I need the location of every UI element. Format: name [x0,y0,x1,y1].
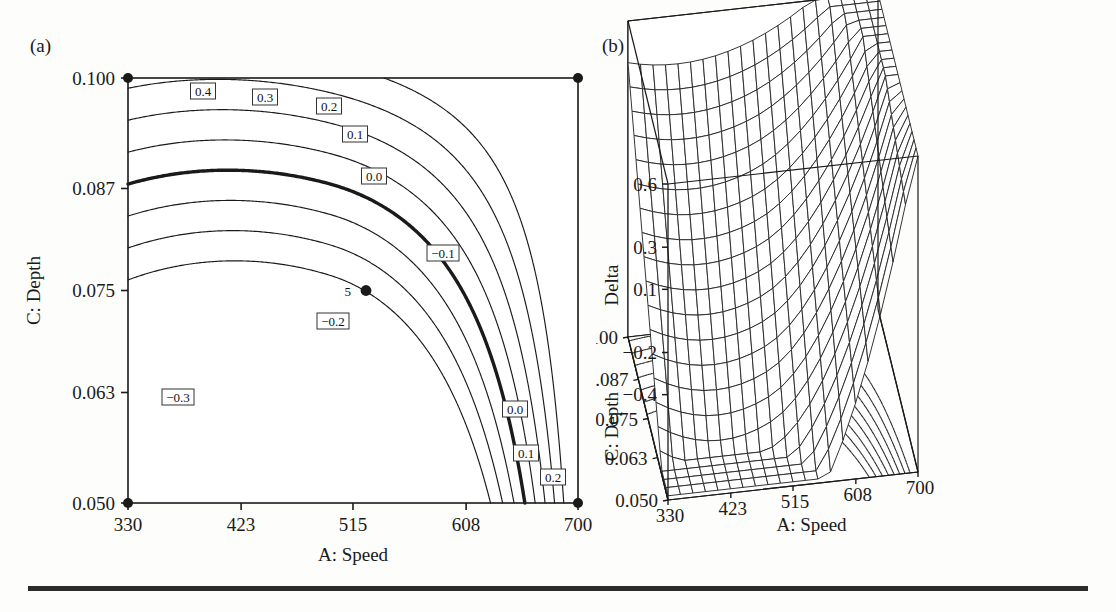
floor-contour-line [844,445,845,446]
mesh-cell [693,85,708,113]
contour-label: −0.2 [317,313,349,329]
contour-label-text: −0.2 [321,314,345,329]
floor-contour-line [870,381,871,382]
mesh-cell [731,409,746,438]
floor-contour-line [877,440,878,441]
floor-contour-line [896,465,897,466]
floor-contour-line [885,425,886,426]
mesh-cell [708,440,723,457]
floor-contour-line [885,468,886,469]
floor-contour-line [887,430,888,431]
floor-contour-line [896,450,897,451]
floor-contour-line [874,462,875,463]
mesh-cell [709,131,724,160]
floor-contour-line [901,463,902,464]
floor-contour-line [908,467,909,468]
floor-contour-line [889,463,890,464]
mesh-cell [727,359,742,388]
z-tick-label: −0.2 [623,342,657,363]
floor-contour-line [880,472,881,473]
floor-contour-line [882,403,883,404]
floor-contour-line [884,407,885,408]
panel-b-label: (b) [602,35,624,57]
z-axis-title: Delta [601,264,622,306]
floor-contour-line [856,407,857,408]
floor-contour-line [879,399,880,400]
floor-contour-line [887,459,888,460]
floor-contour-line [848,436,849,437]
floor-contour-line [880,446,881,447]
floor-contour-line [869,412,870,413]
floor-contour-line [901,448,902,449]
floor-contour-line [894,429,895,430]
floor-contour-line [876,452,877,453]
floor-contour-line [902,449,903,450]
contour-label: −0.3 [162,389,194,405]
x-tick-label-3d: 330 [656,505,685,526]
floor-contour-line [859,462,860,463]
y-tick-3d [633,379,638,380]
mesh-cell [717,232,732,261]
floor-contour-line [876,391,877,392]
mesh-cell [719,258,734,287]
mesh-cell [721,283,736,312]
floor-contour-line [889,449,890,450]
floor-contour-line [854,444,855,445]
floor-contour-line [867,474,868,475]
floor-contour-line [893,428,894,429]
floor-contour-line [883,452,884,453]
floor-contour-line [880,432,881,433]
y-tick-3d [663,500,668,501]
floor-contour-line [878,413,879,414]
mesh-cell [692,239,707,265]
mesh-cell [716,51,731,81]
y-axis-title-3d: C: Depth [601,392,622,462]
floor-contour-line [883,421,884,422]
floor-contour-line [872,401,873,402]
floor-contour-line [874,406,875,407]
floor-contour-line [866,436,867,437]
floor-contour-line [863,417,864,418]
mesh-cell [678,62,693,89]
x-axis-title-3d: A: Speed [776,514,847,535]
floor-contour-line [886,471,887,472]
mesh-cell [733,434,748,454]
floor-contour-line [872,418,873,419]
mesh-cell [713,337,728,365]
contour-label-text: 0.0 [366,169,382,184]
floor-contour-line [649,413,651,414]
y-tick-3d [643,419,648,420]
floor-contour-line [892,425,893,426]
floor-contour-line [895,432,896,433]
mesh-cell [729,479,744,489]
contour-label: −0.1 [427,245,459,261]
floor-contour-line [869,426,870,427]
floor-contour-line [904,455,905,456]
mesh-cell [779,474,794,484]
floor-contour-line [899,442,900,443]
floor-contour-line [899,471,900,472]
floor-contour-line [871,400,872,401]
floor-contour-line [881,418,882,419]
floor-contour-line [876,393,877,394]
floor-contour-line [894,431,895,432]
floor-contour-line [875,407,876,408]
floor-contour-line [888,416,889,417]
floor-contour-line [847,447,848,448]
contour-label: 0.0 [503,401,528,417]
figure-container: (a)0.40.30.20.10.0−0.1−0.2−0.30.00.10.23… [0,0,1116,612]
floor-contour-line [870,413,871,414]
mesh-cell [791,472,806,482]
mesh-cell [719,413,734,440]
mesh-cell [691,483,706,493]
mesh-cell [703,56,718,85]
mesh-cell [705,81,720,110]
floor-contour-line [878,428,879,429]
floor-contour-line [869,440,870,441]
contour-label-text: −0.3 [166,390,190,405]
floor-contour-line [885,410,886,411]
mesh-cell [725,333,740,362]
floor-contour-line [870,429,871,430]
contour-label-text: 0.1 [518,446,534,461]
mesh-cell [695,110,710,138]
